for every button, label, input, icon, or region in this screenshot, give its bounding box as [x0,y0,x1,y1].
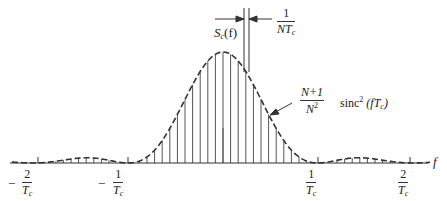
envelope-function: sinc2 (fTc) [340,96,388,111]
axis-label-f: f [433,155,437,168]
line-spacing-label: 1 NTc [277,7,295,37]
tick-label-neg1: 1 Tc [113,168,123,198]
tick-label-neg2: 2 Tc [22,168,32,198]
tick-label-pos1: 1 Tc [306,168,316,198]
envelope-pointer [270,103,292,115]
arrowhead-icon [270,109,279,115]
spectrum-label: Sc(f) [214,26,237,41]
tick-sign: − [8,176,15,192]
tick-label-pos2: 2 Tc [398,168,408,198]
tick-sign: − [98,176,105,192]
envelope-coefficient: N+1 N2 [300,86,324,115]
arrowhead-left-icon [249,16,257,22]
arrowhead-right-icon [236,16,244,22]
